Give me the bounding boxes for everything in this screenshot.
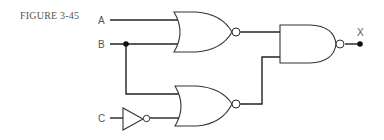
input-label-b: B xyxy=(98,39,105,50)
nor-gate-2 xyxy=(175,86,240,126)
nor-gate-1-bubble xyxy=(232,28,240,36)
nor-gate-1 xyxy=(174,12,240,52)
inverter-bubble xyxy=(143,115,149,121)
nand-gate-bubble xyxy=(336,40,344,48)
input-label-c: C xyxy=(98,113,105,124)
wire-b-branch xyxy=(126,44,179,94)
logic-circuit-diagram: A B C X xyxy=(0,0,384,140)
input-label-a: A xyxy=(98,15,105,26)
nor-gate-2-body xyxy=(175,86,232,126)
nor-gate-1-body xyxy=(174,12,232,52)
output-label-x: X xyxy=(357,27,364,38)
nand-gate xyxy=(280,25,344,63)
wire-nor2-out xyxy=(240,57,281,104)
nand-gate-body xyxy=(280,25,336,63)
output-terminal-dot xyxy=(357,41,363,47)
inverter-body xyxy=(123,108,143,130)
inverter-gate xyxy=(123,108,150,130)
junction-dot-b xyxy=(123,41,129,47)
nor-gate-2-bubble xyxy=(232,100,240,108)
